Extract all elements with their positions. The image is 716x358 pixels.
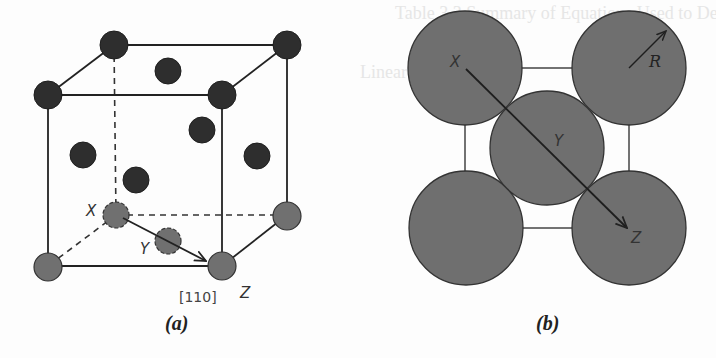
atom-x-bottom-back-left [103, 202, 129, 228]
caption-a: (a) [165, 312, 188, 335]
label-radius: R [648, 52, 661, 71]
atom-bottom-back-right [273, 202, 301, 230]
atom-top-face [155, 58, 181, 84]
label-x: X [449, 53, 461, 71]
panel-a-fcc-unit-cell: X Y Z [110] (a) [34, 31, 301, 335]
atom-bottom-right [572, 171, 686, 285]
atom-z-bottom-front-right [208, 252, 236, 280]
atom-left-face [70, 142, 96, 168]
atom-front-face [123, 167, 149, 193]
atom-back-face [189, 117, 215, 143]
atom-right-face [244, 143, 270, 169]
direction-index-label: [110] [179, 289, 217, 305]
atom-bottom-front-left [34, 253, 62, 281]
atom-top-front-left [34, 81, 62, 109]
face-center-atoms [70, 58, 270, 193]
label-y: Y [140, 240, 151, 258]
atom-top-back-right [273, 31, 301, 59]
direction-110-arrow [123, 218, 206, 261]
label-z: Z [239, 284, 251, 302]
label-z: Z [630, 229, 642, 247]
caption-b: (b) [536, 312, 559, 335]
label-x: X [85, 202, 97, 220]
atom-top-front-right [208, 81, 236, 109]
panel-b-plane-packing: X Y Z R (b) [408, 11, 686, 335]
atom-top-back-left [100, 31, 128, 59]
